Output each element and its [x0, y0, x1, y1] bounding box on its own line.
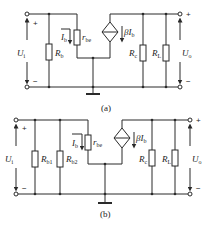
output-terminal-plus: [188, 118, 192, 122]
resistor-rc: [140, 45, 146, 61]
output-terminal-minus: [178, 85, 182, 89]
node: [174, 193, 177, 196]
node: [142, 86, 145, 89]
resistor-rb2: [57, 151, 63, 167]
node: [59, 119, 62, 122]
uo-minus-label: −: [186, 77, 191, 86]
resistor-rl: [163, 45, 169, 61]
resistor-rc: [149, 150, 155, 166]
rbe-label: rbe: [82, 32, 92, 43]
beta-ib-label: βIb: [123, 27, 134, 38]
output-terminal-plus: [178, 12, 182, 16]
rc-label: Rc: [128, 48, 138, 59]
node: [165, 86, 168, 89]
ui-plus-label: +: [33, 19, 38, 28]
uo-label: Uo: [182, 48, 192, 59]
uo-plus-label: +: [186, 10, 191, 19]
node: [151, 119, 154, 122]
ui-minus-label: −: [22, 184, 27, 193]
rl-label: RL: [161, 154, 172, 165]
node: [48, 13, 51, 16]
ib-label: Ib: [71, 138, 78, 149]
resistor-rb: [46, 44, 52, 60]
node: [92, 86, 95, 89]
rb2-label: Rb2: [65, 154, 78, 165]
node: [48, 86, 51, 89]
rbe-label: rbe: [93, 137, 103, 148]
input-terminal-plus: [14, 118, 18, 122]
ui-label: Ui: [5, 154, 14, 165]
caption-b: (b): [100, 209, 111, 219]
circuit-b: + − + − Ui Uo Rb1 Rb2 rbe Ib βIb Rc RL (…: [5, 116, 202, 219]
output-terminal-minus: [188, 192, 192, 196]
uo-plus-label: +: [196, 116, 201, 125]
rc-label: Rc: [138, 154, 148, 165]
input-terminal-minus: [14, 192, 18, 196]
uo-label: Uo: [192, 154, 202, 165]
node: [92, 57, 95, 60]
ui-plus-label: +: [22, 124, 27, 133]
rb1-label: Rb1: [40, 154, 53, 165]
ui-minus-label: −: [33, 77, 38, 86]
circuit-figure: + − + − Ui Uo Rb rbe Ib βIb Rc RL (a): [0, 0, 216, 230]
node: [59, 193, 62, 196]
circuit-a: + − + − Ui Uo Rb rbe Ib βIb Rc RL (a): [17, 10, 192, 113]
node: [34, 119, 37, 122]
node: [142, 13, 145, 16]
resistor-rb1: [32, 151, 38, 167]
node: [104, 163, 107, 166]
input-terminal-plus: [25, 12, 29, 16]
rb-label: Rb: [54, 48, 64, 59]
rl-label: RL: [151, 48, 162, 59]
node: [104, 193, 107, 196]
ib-label: Ib: [60, 32, 67, 43]
node: [151, 193, 154, 196]
input-terminal-minus: [25, 85, 29, 89]
node: [174, 119, 177, 122]
resistor-rl: [172, 150, 178, 166]
ui-label: Ui: [17, 48, 26, 59]
uo-minus-label: −: [196, 184, 201, 193]
resistor-rbe: [85, 135, 91, 150]
caption-a: (a): [101, 103, 111, 113]
node: [165, 13, 168, 16]
beta-ib-label: βIb: [135, 133, 146, 144]
node: [34, 193, 37, 196]
resistor-rbe: [74, 30, 80, 45]
